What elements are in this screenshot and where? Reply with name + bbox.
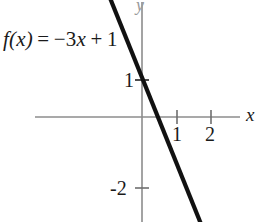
- y-axis-label: y: [136, 0, 144, 14]
- graph-figure: f(x) = −3x + 1 1 2 1 -2 x y: [0, 0, 260, 222]
- y-tick-label-1: 1: [124, 70, 134, 90]
- x-axis-label: x: [246, 105, 254, 124]
- function-lhs: f(x): [3, 27, 33, 51]
- x-tick-label-2: 2: [205, 124, 215, 144]
- x-tick-label-1: 1: [172, 124, 182, 144]
- y-tick-label-negative-2: -2: [110, 178, 127, 198]
- function-equation-label: f(x) = −3x + 1: [3, 29, 118, 50]
- function-equals: =: [37, 27, 49, 51]
- function-rhs: −3x + 1: [54, 27, 118, 51]
